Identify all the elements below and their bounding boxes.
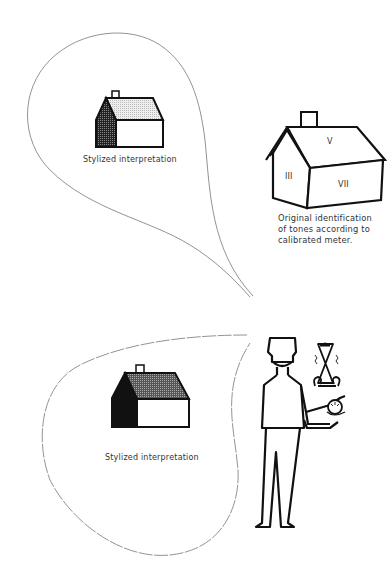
illustration-canvas [0, 0, 392, 573]
caption-line: calibrated meter. [278, 235, 372, 246]
top-thought-bubble [28, 33, 254, 297]
zone-iii-label: III [285, 172, 293, 181]
original-caption: Original identification of tones accordi… [278, 213, 372, 246]
man-with-meter-figure [256, 338, 345, 527]
top-stylized-label: Stylized interpretation [83, 155, 177, 164]
bottom-thought-bubble [42, 335, 250, 555]
caption-line: of tones according to [278, 224, 372, 235]
zone-vii-label: VII [338, 180, 349, 189]
bottom-stylized-house [112, 365, 189, 427]
caption-line: Original identification [278, 213, 372, 224]
bottom-stylized-label: Stylized interpretation [105, 453, 199, 462]
original-house [266, 112, 385, 208]
top-stylized-house [96, 91, 163, 147]
zone-v-label: V [327, 137, 333, 146]
